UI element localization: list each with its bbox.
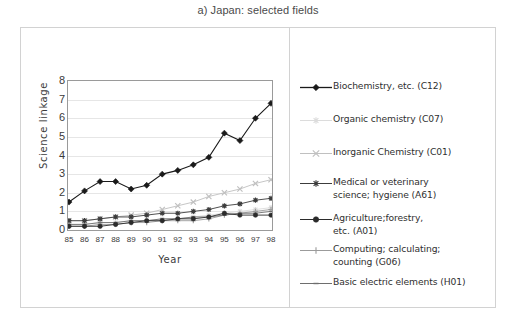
plot-region: Science linkage 012345678 85868788899091… — [21, 28, 289, 307]
y-axis-tick-labels: 012345678 — [41, 73, 65, 238]
y-axis-tick: 5 — [41, 130, 65, 143]
legend-item-label: Medical or veterinary science; hygiene (… — [333, 176, 436, 201]
legend-marker-icon — [299, 244, 333, 257]
legend-item-label: Organic chemistry (C07) — [333, 113, 443, 126]
figure-title: a) Japan: selected fields — [0, 4, 516, 16]
legend-item[interactable]: Computing; calculating; counting (G06) — [299, 243, 497, 268]
y-axis-tick: 2 — [41, 186, 65, 199]
x-axis-tick: 98 — [262, 235, 280, 244]
x-axis-tick-labels: 8586878889909192939495969798 — [67, 235, 273, 249]
legend-marker-icon — [299, 177, 333, 190]
legend-item-label: Inorganic Chemistry (C01) — [333, 146, 451, 159]
legend: Biochemistry, etc. (C12)Organic chemistr… — [291, 28, 497, 307]
legend-item-label: Basic electric elements (H01) — [333, 276, 466, 289]
legend-item-label: Agriculture;forestry, etc. (A01) — [333, 212, 423, 237]
figure-divider — [289, 28, 290, 307]
legend-item-label: Computing; calculating; counting (G06) — [333, 243, 440, 268]
legend-item-label: Biochemistry, etc. (C12) — [333, 80, 442, 93]
series-lines — [68, 81, 272, 230]
legend-marker-icon — [299, 147, 333, 160]
y-axis-tick: 6 — [41, 111, 65, 124]
y-axis-tick: 7 — [41, 93, 65, 106]
legend-marker-icon — [299, 213, 333, 226]
series-c12 — [68, 100, 272, 205]
legend-item[interactable]: Biochemistry, etc. (C12) — [299, 80, 497, 94]
chart-figure-frame: Science linkage 012345678 85868788899091… — [20, 27, 496, 308]
legend-item[interactable]: Agriculture;forestry, etc. (A01) — [299, 212, 497, 237]
plot-area — [67, 80, 273, 231]
legend-marker-icon — [299, 114, 333, 127]
legend-marker-icon — [299, 81, 333, 94]
y-axis-tick: 1 — [41, 204, 65, 217]
legend-item[interactable]: Medical or veterinary science; hygiene (… — [299, 176, 497, 201]
y-axis-tick: 8 — [41, 74, 65, 87]
x-axis-title: Year — [67, 254, 273, 265]
y-axis-tick: 4 — [41, 149, 65, 162]
y-axis-tick: 3 — [41, 167, 65, 180]
legend-item[interactable]: Organic chemistry (C07) — [299, 113, 497, 127]
legend-marker-icon — [299, 277, 333, 290]
legend-item[interactable]: Basic electric elements (H01) — [299, 276, 497, 290]
legend-item[interactable]: Inorganic Chemistry (C01) — [299, 146, 497, 160]
